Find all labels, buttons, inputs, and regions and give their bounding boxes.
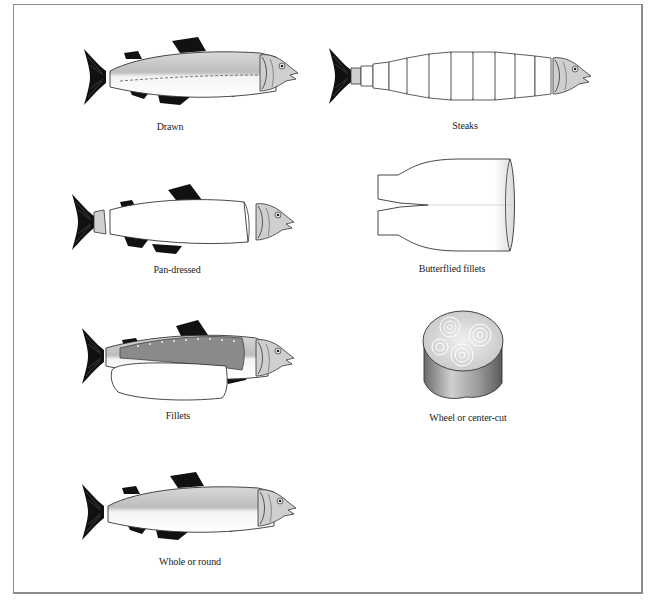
panel-label: Pan-dressed — [153, 264, 200, 275]
whole-fish-icon — [78, 470, 308, 550]
panel-label: Butterflied fillets — [419, 263, 486, 274]
panel-drawn: Drawn — [80, 35, 310, 115]
panel-fillets: Fillets — [78, 320, 308, 420]
steaks-fish-icon — [325, 40, 595, 120]
panel-pan-dressed: Pan-dressed — [72, 180, 312, 270]
panel-label: Wheel or center-cut — [429, 412, 506, 423]
butterflied-fillets-icon — [370, 155, 530, 255]
panel-label: Fillets — [166, 410, 190, 421]
wheel-cut-icon — [410, 305, 550, 405]
panel-wheel-center-cut: Wheel or center-cut — [410, 305, 550, 425]
drawn-fish-icon — [80, 35, 310, 115]
panel-label: Drawn — [157, 121, 184, 132]
panel-label: Whole or round — [159, 556, 221, 567]
pan-dressed-fish-icon — [72, 180, 312, 270]
panel-butterflied-fillets: Butterflied fillets — [370, 155, 530, 270]
panel-steaks: Steaks — [325, 40, 595, 120]
panel-whole-round: Whole or round — [78, 470, 308, 570]
panel-label: Steaks — [452, 120, 478, 131]
fillets-fish-icon — [78, 320, 308, 410]
